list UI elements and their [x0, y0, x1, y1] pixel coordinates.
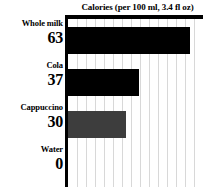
- category-label-block: Cappuccino30: [0, 102, 63, 130]
- category-label-block: Water0: [0, 144, 63, 172]
- category-label-block: Whole milk63: [0, 18, 63, 46]
- plot-area: [68, 19, 203, 187]
- category-label-block: Cola37: [0, 60, 63, 88]
- category-name: Whole milk: [0, 18, 63, 29]
- category-value: 63: [0, 29, 63, 46]
- category-name: Water: [0, 144, 63, 155]
- category-name: Cola: [0, 60, 63, 71]
- category-value: 0: [0, 155, 63, 172]
- value-axis-line: [65, 15, 68, 187]
- calories-bar-chart: Calories (per 100 ml, 3.4 fl oz) Whole m…: [0, 0, 207, 193]
- bar-row: [68, 27, 203, 54]
- category-name: Cappuccino: [0, 102, 63, 113]
- bar-row: [68, 111, 203, 138]
- category-value: 37: [0, 71, 63, 88]
- bar: [68, 69, 139, 96]
- chart-title: Calories (per 100 ml, 3.4 fl oz): [68, 0, 207, 14]
- category-value: 30: [0, 113, 63, 130]
- bar-row: [68, 69, 203, 96]
- bar: [68, 27, 190, 54]
- bar: [68, 111, 126, 138]
- bar-row: [68, 153, 203, 180]
